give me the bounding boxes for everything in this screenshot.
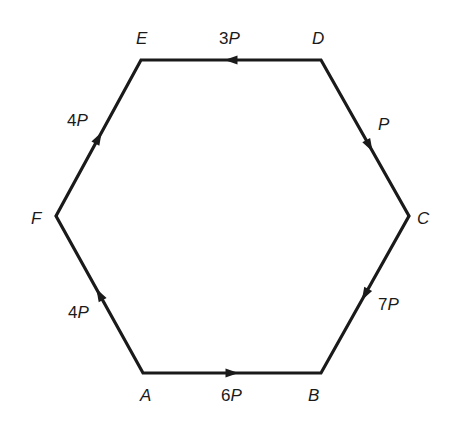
arrowhead-icon	[362, 138, 372, 152]
arrowhead-icon	[96, 289, 106, 303]
arrowhead-icon	[362, 287, 372, 301]
vertex-label-e: E	[136, 30, 147, 47]
force-label-ab: 6P	[221, 387, 242, 404]
arrowhead-icon	[225, 56, 238, 65]
hexagon-canvas	[0, 0, 453, 423]
vertex-label-c: C	[417, 210, 429, 227]
arrowhead-icon	[91, 132, 101, 146]
hexagon-outline	[56, 60, 409, 373]
vertex-label-f: F	[31, 210, 41, 227]
force-label-af: 4P	[68, 304, 89, 321]
force-label-de: 3P	[219, 30, 240, 47]
arrowhead-icon	[226, 369, 239, 378]
force-label-fe: 4P	[67, 112, 88, 129]
vertex-label-b: B	[308, 387, 319, 404]
vertex-label-a: A	[140, 387, 151, 404]
force-label-dc: P	[378, 116, 389, 133]
force-arrows	[91, 56, 372, 378]
force-label-cb: 7P	[378, 296, 399, 313]
force-hexagon-diagram: A B C D E F 6P P 7P 3P 4P 4P	[0, 0, 453, 423]
vertex-label-d: D	[312, 30, 324, 47]
